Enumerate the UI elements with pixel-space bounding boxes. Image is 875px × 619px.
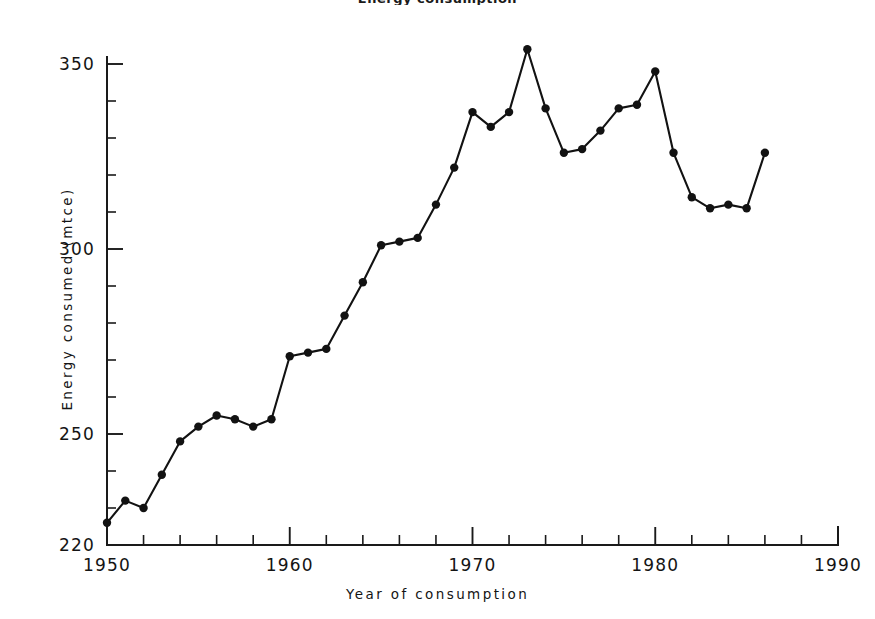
data-point-1981 xyxy=(669,149,677,157)
data-point-1952 xyxy=(139,504,147,512)
data-point-1971 xyxy=(487,123,495,131)
data-point-1965 xyxy=(377,241,385,249)
line-chart-plot: 220250300350 19501960197019801990 xyxy=(0,0,875,619)
data-point-1962 xyxy=(322,345,330,353)
data-point-1963 xyxy=(340,311,348,319)
y-tick-label-350: 350 xyxy=(59,54,95,74)
data-point-1978 xyxy=(615,104,623,112)
data-point-1982 xyxy=(688,193,696,201)
data-point-1954 xyxy=(176,437,184,445)
data-point-1964 xyxy=(359,278,367,286)
series-line-energy xyxy=(107,49,765,523)
data-point-1950 xyxy=(103,519,111,527)
data-point-1980 xyxy=(651,67,659,75)
data-point-1960 xyxy=(286,352,294,360)
y-tick-label-220: 220 xyxy=(59,535,95,555)
x-axis-title: Year of consumption xyxy=(0,586,875,602)
chart-figure: Energy consumption 220250300350 19501960… xyxy=(0,0,875,619)
data-point-1951 xyxy=(121,496,129,504)
data-point-1976 xyxy=(578,145,586,153)
y-axis-title: Energy consumed (mtce) xyxy=(59,89,75,509)
x-axis-tick-labels: 19501960197019801990 xyxy=(83,555,862,575)
x-axis-ticks xyxy=(144,527,838,545)
data-point-1985 xyxy=(742,204,750,212)
data-point-1986 xyxy=(761,149,769,157)
data-point-1955 xyxy=(194,422,202,430)
data-point-1967 xyxy=(413,234,421,242)
data-point-1959 xyxy=(267,415,275,423)
data-point-1968 xyxy=(432,200,440,208)
data-point-1957 xyxy=(231,415,239,423)
y-axis-ticks xyxy=(107,64,123,508)
x-tick-label-1980: 1980 xyxy=(631,555,679,575)
data-point-1969 xyxy=(450,163,458,171)
axis-lines xyxy=(107,57,838,545)
data-point-1979 xyxy=(633,101,641,109)
x-tick-label-1970: 1970 xyxy=(448,555,496,575)
data-point-1966 xyxy=(395,237,403,245)
data-point-1961 xyxy=(304,348,312,356)
data-point-1973 xyxy=(523,45,531,53)
data-point-1984 xyxy=(724,200,732,208)
x-tick-label-1950: 1950 xyxy=(83,555,131,575)
data-point-1977 xyxy=(596,126,604,134)
data-point-1956 xyxy=(212,411,220,419)
data-point-1970 xyxy=(468,108,476,116)
x-tick-label-1960: 1960 xyxy=(266,555,314,575)
series-markers-energy xyxy=(103,45,769,527)
data-point-1958 xyxy=(249,422,257,430)
data-point-1975 xyxy=(560,149,568,157)
data-point-1974 xyxy=(541,104,549,112)
data-point-1953 xyxy=(158,471,166,479)
x-tick-label-1990: 1990 xyxy=(814,555,862,575)
data-point-1983 xyxy=(706,204,714,212)
data-point-1972 xyxy=(505,108,513,116)
